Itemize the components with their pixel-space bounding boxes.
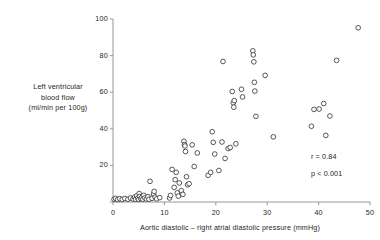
data-point [177,181,182,186]
data-point [208,170,213,175]
data-point [239,87,244,92]
data-point [232,98,237,103]
data-point [168,193,173,198]
y-tick-label: 60 [84,87,108,96]
y-tick-label: 20 [84,160,108,169]
data-point [271,135,276,140]
data-point [317,107,322,112]
data-point [253,89,258,94]
data-point [309,124,314,129]
y-tick-label: 40 [84,124,108,133]
data-point [210,129,215,134]
data-point [312,107,317,112]
data-point [192,164,197,169]
data-point [251,53,256,58]
data-point [183,144,188,149]
y-tick-label: 100 [84,14,108,23]
data-point [212,152,217,157]
data-point [234,141,239,146]
data-point [321,101,326,106]
x-tick-label: 0 [101,208,125,217]
x-axis-label: Aortic diastolic – right atrial diastoli… [80,223,380,232]
scatter-plot-figure: Left ventricular blood flow (ml/min per … [0,0,380,240]
y-axis-label-line-3: (ml/min per 100g) [12,103,104,114]
x-tick-label: 30 [255,208,279,217]
data-point [148,179,153,184]
data-point [263,73,268,78]
data-point [172,185,177,190]
x-tick-label: 10 [152,208,176,217]
data-point [173,177,178,182]
annotation-text: r = 0.84 [311,152,337,161]
data-point [240,95,245,100]
data-point [184,174,189,179]
data-point [157,195,162,200]
data-point [328,114,333,119]
data-point [220,140,225,145]
data-point [170,167,175,172]
data-point [190,143,195,148]
data-point [251,59,256,64]
y-tick-label: 80 [84,51,108,60]
data-point [323,133,328,138]
x-tick-label: 50 [358,208,380,217]
data-point [211,140,216,145]
data-point [221,59,226,64]
data-point [195,151,200,156]
x-tick-label: 20 [204,208,228,217]
data-point [228,145,233,150]
data-point [174,170,179,175]
data-point [231,105,236,110]
data-point [176,194,181,199]
data-point [230,89,235,94]
data-point [252,80,257,85]
data-point [217,168,222,173]
data-point [183,149,188,154]
data-point [181,192,186,197]
annotation-text: p < 0.001 [311,169,342,178]
x-tick-label: 40 [307,208,331,217]
plot-canvas [0,0,380,240]
data-point [334,58,339,63]
data-point [187,181,192,186]
data-point [223,156,228,161]
data-point [254,114,259,119]
data-point [152,189,157,194]
data-point [356,25,361,30]
